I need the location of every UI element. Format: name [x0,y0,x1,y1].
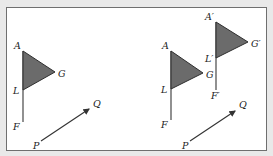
right-original-flag-triangle [171,51,203,89]
right-original-flag [171,51,203,120]
label-Q-right: Q [239,99,247,110]
label-G-prime: G′ [251,38,262,49]
label-L-right: L [160,84,167,95]
label-A: A [13,40,21,51]
label-L: L [12,85,19,96]
right-image-flag-triangle [216,22,248,58]
label-A-right: A [161,40,169,51]
left-flag-triangle [23,51,55,90]
label-F-prime: F′ [210,90,221,101]
label-A-prime: A′ [204,11,215,22]
label-F-right: F [160,119,168,130]
label-G-right: G [206,69,214,80]
label-L-prime: L′ [204,53,214,64]
label-F: F [12,121,20,132]
right-image-flag [216,22,248,90]
label-Q: Q [93,98,101,109]
label-G: G [58,68,66,79]
right-vector-pq [190,111,235,141]
left-vector-pq [41,109,89,141]
translation-diagram: A G L F P Q A G L F A′ G′ L′ F′ P Q [0,0,273,156]
left-flag [23,51,55,122]
label-P: P [32,140,40,151]
label-P-right: P [181,140,189,151]
